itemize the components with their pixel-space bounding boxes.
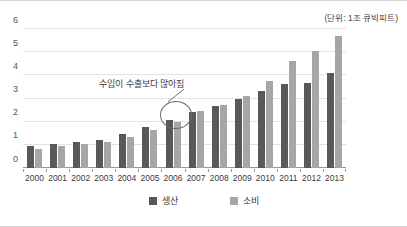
x-axis-tick-label: 2006 <box>161 173 184 183</box>
x-axis-tick-label: 2002 <box>69 173 92 183</box>
x-axis-tick: 2011 <box>277 169 300 183</box>
x-axis-tick-mark <box>277 169 278 172</box>
x-axis-tick-label: 2003 <box>92 173 115 183</box>
x-axis-tick-label: 2008 <box>208 173 231 183</box>
legend-label-production: 생산 <box>162 194 178 207</box>
x-axis-tick: 2009 <box>231 169 254 183</box>
x-axis-tick: 2013 <box>323 169 346 183</box>
x-axis-tick-label: 2001 <box>46 173 69 183</box>
bar-consumption <box>35 149 42 168</box>
bar-production <box>73 142 80 168</box>
bar-consumption <box>197 111 204 168</box>
bar-consumption <box>243 96 250 168</box>
bar-production <box>327 73 334 168</box>
x-axis-tick-label: 2009 <box>231 173 254 183</box>
y-axis-tick-label: 4 <box>13 61 18 71</box>
x-axis-tick-mark <box>115 169 116 172</box>
bar-consumption <box>289 61 296 168</box>
y-axis-tick-label: 3 <box>13 84 18 94</box>
bar-group <box>208 29 231 168</box>
x-axis-tick-label: 2007 <box>185 173 208 183</box>
x-axis-tick: 2003 <box>92 169 115 183</box>
legend-item-production: 생산 <box>149 194 178 207</box>
x-axis-tick-mark-end <box>345 169 346 172</box>
legend-swatch-production-icon <box>149 197 157 205</box>
bar-production <box>50 144 57 168</box>
legend-swatch-consumption-icon <box>230 197 238 205</box>
legend-label-consumption: 소비 <box>243 194 259 207</box>
x-axis-tick-mark <box>231 169 232 172</box>
x-axis-tick: 2005 <box>138 169 161 183</box>
x-axis-tick: 2007 <box>185 169 208 183</box>
x-axis-tick-mark <box>23 169 24 172</box>
x-axis-tick-mark <box>323 169 324 172</box>
bar-group <box>46 29 69 168</box>
x-axis-tick: 2008 <box>208 169 231 183</box>
bar-group <box>254 29 277 168</box>
bar-consumption <box>266 81 273 168</box>
x-axis-tick-labels: 2000200120022003200420052006200720082009… <box>23 169 346 183</box>
x-axis-tick-mark <box>254 169 255 172</box>
y-axis-tick-label: 2 <box>13 107 18 117</box>
bar-production <box>304 83 311 168</box>
bar-consumption <box>127 137 134 168</box>
bar-production <box>212 106 219 168</box>
x-axis-tick-mark <box>300 169 301 172</box>
y-axis-tick-label: 0 <box>13 154 18 164</box>
bar-consumption <box>104 142 111 168</box>
x-axis-tick-mark <box>69 169 70 172</box>
bar-group <box>277 29 300 168</box>
bar-production <box>235 99 242 168</box>
bar-production <box>27 146 34 168</box>
bar-group <box>323 29 346 168</box>
x-axis-tick: 2006 <box>161 169 184 183</box>
bar-production <box>96 140 103 168</box>
x-axis-tick: 2001 <box>46 169 69 183</box>
bar-group <box>185 29 208 168</box>
x-axis-tick-mark <box>138 169 139 172</box>
x-axis-tick: 2002 <box>69 169 92 183</box>
bar-production <box>258 91 265 168</box>
bar-consumption <box>174 122 181 168</box>
legend-item-consumption: 소비 <box>230 194 259 207</box>
bar-production <box>142 127 149 168</box>
x-axis-tick-mark <box>185 169 186 172</box>
y-axis-tick-label: 5 <box>13 38 18 48</box>
x-axis-tick-label: 2000 <box>23 173 46 183</box>
x-axis-tick: 2004 <box>115 169 138 183</box>
y-axis-tick-label: 1 <box>13 130 18 140</box>
bar-group <box>115 29 138 168</box>
bar-consumption <box>81 144 88 168</box>
bar-consumption <box>335 36 342 168</box>
x-axis-tick-mark <box>92 169 93 172</box>
x-axis-tick-label: 2011 <box>277 173 300 183</box>
x-axis-tick-label: 2004 <box>115 173 138 183</box>
bar-group <box>231 29 254 168</box>
x-axis-tick-label: 2010 <box>254 173 277 183</box>
x-axis-tick-mark <box>208 169 209 172</box>
y-axis-tick-label: 6 <box>13 15 18 25</box>
chart-legend: 생산 소비 <box>0 194 407 207</box>
bar-group <box>92 29 115 168</box>
bar-production <box>119 134 126 168</box>
x-axis-tick: 2000 <box>23 169 46 183</box>
x-axis-tick-label: 2012 <box>300 173 323 183</box>
bar-consumption <box>150 130 157 168</box>
x-axis-tick-mark <box>161 169 162 172</box>
x-axis-tick: 2010 <box>254 169 277 183</box>
x-axis-tick-mark <box>46 169 47 172</box>
bar-group <box>138 29 161 168</box>
x-axis-tick-label: 2005 <box>138 173 161 183</box>
bar-group <box>69 29 92 168</box>
bar-consumption <box>312 51 319 168</box>
bar-consumption <box>220 105 227 168</box>
annotation-highlight-ellipse <box>160 101 192 129</box>
bar-group <box>23 29 46 168</box>
bar-production <box>281 84 288 168</box>
x-axis-tick: 2012 <box>300 169 323 183</box>
bar-group <box>300 29 323 168</box>
bar-consumption <box>58 146 65 168</box>
x-axis-tick-label: 2013 <box>323 173 346 183</box>
unit-caption: (단위: 1조 큐빅피트) <box>325 11 398 23</box>
chart-container: (단위: 1조 큐빅피트) 0123456 200020012002200320… <box>0 0 407 227</box>
